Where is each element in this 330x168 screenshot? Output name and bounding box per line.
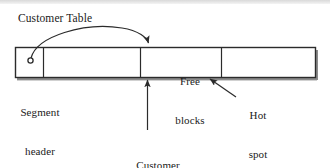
label-segment-header-line1: Segment (7, 106, 73, 119)
label-customer-inserts-line1: Customer (113, 159, 203, 168)
label-hot-spot: Hot spot (238, 83, 278, 168)
label-free-blocks-line1: Free (159, 75, 221, 88)
label-customer-table: Customer Table (18, 12, 92, 26)
label-segment-header: Segment header (7, 80, 73, 168)
label-hot-spot-line1: Hot (238, 109, 278, 122)
label-hot-spot-line2: spot (238, 148, 278, 161)
label-segment-header-line2: header (7, 145, 73, 158)
label-free-blocks-line2: blocks (159, 114, 221, 127)
diagram-canvas: Customer Table Free blocks Segment heade… (0, 0, 330, 168)
label-customer-inserts: Customer inserts (113, 133, 203, 168)
